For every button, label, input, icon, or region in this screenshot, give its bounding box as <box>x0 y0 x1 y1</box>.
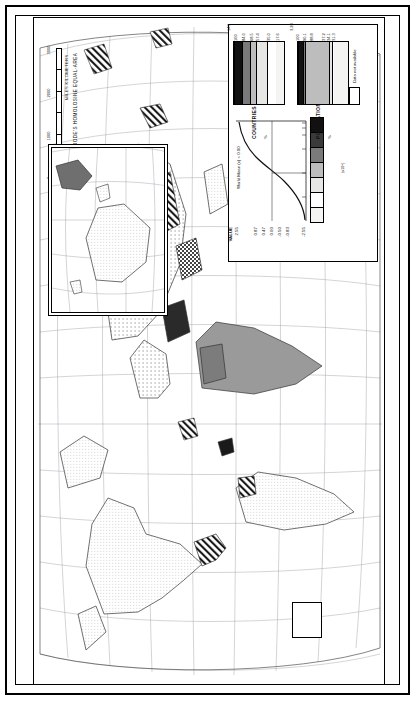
world-mean-label: World Mean (x) = 0.00 <box>236 146 241 189</box>
countries-cum-3: 57.4 <box>255 33 260 41</box>
value-break-3: 0.00 <box>270 227 274 236</box>
countries-seg-4 <box>250 42 256 104</box>
countries-cum-6: 100 <box>233 34 238 41</box>
map-page: FACTOR 2. MAGNITUDE <box>0 0 417 702</box>
scale-tick-3000: 3000 <box>46 46 51 55</box>
value-break-5: -0.83 <box>286 227 290 237</box>
swatch-class-1 <box>311 207 323 222</box>
map-frame: 0 1000 2000 3000 MILES KILOMETERS MODIFI… <box>33 17 385 685</box>
locator-inset-box <box>292 602 322 638</box>
countries-bar-row: COUNTRIES % 17.6 35.0 57.4 <box>231 27 289 139</box>
legend-panel: VALUE 2.55 0.87 0.47 0.00 -0.50 -0.83 -2… <box>228 24 378 262</box>
population-cum-5: 90.1 <box>302 33 307 41</box>
population-seg-1 <box>333 42 347 104</box>
countries-seg-3 <box>256 42 267 104</box>
population-total: 3.28 <box>289 23 294 31</box>
inset-map <box>48 144 168 316</box>
countries-cum-2: 35.0 <box>266 33 271 41</box>
map-canvas-rotated: 0 1000 2000 3000 MILES KILOMETERS MODIFI… <box>33 17 385 685</box>
countries-cum-4: 68.5 <box>249 33 254 41</box>
value-break-2: 0.47 <box>262 227 266 236</box>
swatch-class-5 <box>311 147 323 162</box>
population-cum-1: 31.3 <box>331 33 336 41</box>
scale-unit-label: MILES KILOMETERS <box>64 54 69 100</box>
scale-tick-1000: 1000 <box>46 132 51 141</box>
value-break-4: -0.50 <box>278 227 282 237</box>
population-unit: % <box>327 135 332 139</box>
swatch-class-3 <box>311 177 323 192</box>
countries-total-count: 143 <box>226 24 231 31</box>
value-break-6: -2.55 <box>302 227 306 237</box>
population-unit-note: (x10⁹) <box>341 163 345 173</box>
no-data-swatch <box>349 87 360 105</box>
population-seg-6 <box>298 42 303 104</box>
countries-seg-1 <box>276 42 284 104</box>
value-break-0: 2.55 <box>235 227 239 236</box>
countries-seg-6 <box>233 42 241 104</box>
population-label: POPULATION <box>315 103 321 139</box>
population-cum-2: 34.1 <box>326 33 331 41</box>
countries-label: COUNTRIES <box>251 106 257 139</box>
countries-seg-2 <box>267 42 276 104</box>
countries-bar <box>233 41 285 105</box>
summary-bars: COUNTRIES % 17.6 35.0 57.4 <box>231 27 373 139</box>
population-bar <box>297 41 349 105</box>
value-break-labels: VALUE 2.55 0.87 0.47 0.00 -0.50 -0.83 -2… <box>234 225 308 257</box>
value-header: VALUE <box>229 227 233 242</box>
countries-cum-5: 84.0 <box>241 33 246 41</box>
population-cum-4: 88.8 <box>309 33 314 41</box>
swatch-class-2 <box>311 192 323 207</box>
countries-seg-5 <box>242 42 250 104</box>
scale-tick-2000: 2000 <box>46 89 51 98</box>
inset-map-inner <box>51 147 165 313</box>
countries-unit: % <box>263 135 268 139</box>
value-break-1: 0.87 <box>254 227 258 236</box>
no-data-key: Data not available <box>349 49 360 105</box>
population-bar-row: POPULATION % 31.3 34.1 37.2 <box>295 27 353 139</box>
population-seg-4 <box>305 42 329 104</box>
no-data-label: Data not available <box>352 49 357 83</box>
swatch-class-4 <box>311 162 323 177</box>
countries-cum-1: 17.6 <box>275 33 280 41</box>
population-cum-3: 37.2 <box>321 33 326 41</box>
population-cum-6: 100 <box>295 34 300 41</box>
